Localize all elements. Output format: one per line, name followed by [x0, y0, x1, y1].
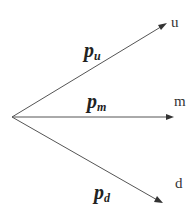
end-label-u: u — [171, 14, 179, 30]
middle-arrowhead-icon — [166, 114, 174, 120]
label-p-down: pd — [92, 181, 111, 205]
label-p-up: pu — [82, 39, 101, 63]
up-arrowhead-icon — [158, 23, 167, 30]
label-p-middle: pm — [85, 90, 106, 114]
down-arrowhead-icon — [154, 196, 163, 203]
down-branch-edge — [12, 117, 159, 201]
end-label-d: d — [175, 175, 183, 191]
end-label-m: m — [174, 93, 186, 109]
trinomial-tree-diagram: pu pm pd u m d — [0, 0, 194, 215]
